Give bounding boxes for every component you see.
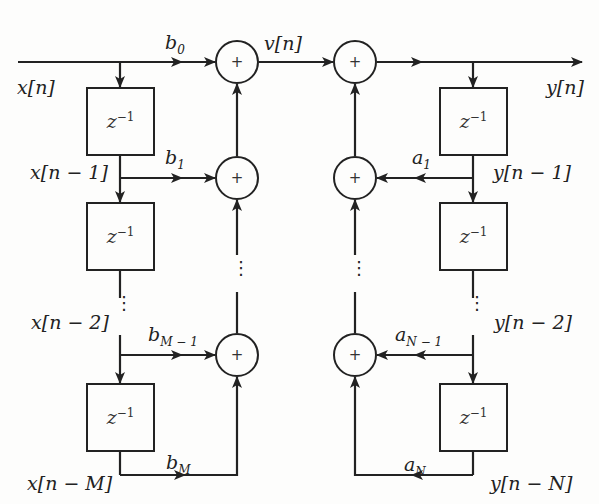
delay-block-x-1: z−1 xyxy=(86,87,155,156)
adder-fb-1: + xyxy=(333,156,377,200)
plus-icon: + xyxy=(349,346,362,364)
adder-ff-0: + xyxy=(215,40,259,84)
plus-icon: + xyxy=(231,346,244,364)
x-delay-ellipsis: ⋮ xyxy=(115,300,125,306)
delay-block-x-2: z−1 xyxy=(86,202,155,271)
coeff-an-1: aN − 1 xyxy=(395,325,442,348)
coeff-an: aN xyxy=(404,455,426,478)
adder-right-ellipsis: ⋮ xyxy=(350,265,360,271)
x-delay-label-m: x[n − M] xyxy=(27,474,112,493)
plus-icon: + xyxy=(349,53,362,71)
y-delay-ellipsis: ⋮ xyxy=(468,300,478,306)
plus-icon: + xyxy=(349,169,362,187)
x-delay-label-2: x[n − 2] xyxy=(31,313,109,332)
delay-block-y-1: z−1 xyxy=(439,87,508,156)
coeff-b0: b0 xyxy=(165,33,185,56)
output-signal-label: y[n] xyxy=(546,78,584,97)
y-delay-label-1: y[n − 1] xyxy=(493,163,571,182)
delay-block-y-2: z−1 xyxy=(439,202,508,271)
adder-fb-0: + xyxy=(333,40,377,84)
plus-icon: + xyxy=(231,169,244,187)
coeff-a1: a1 xyxy=(412,148,431,171)
delay-block-x-m: z−1 xyxy=(86,383,155,452)
adder-fb-n-1: + xyxy=(333,333,377,377)
x-delay-label-1: x[n − 1] xyxy=(30,163,108,182)
y-delay-label-n: y[n − N] xyxy=(490,474,572,493)
adder-left-ellipsis: ⋮ xyxy=(232,265,242,271)
adder-ff-m-1: + xyxy=(215,333,259,377)
delay-block-y-n: z−1 xyxy=(439,383,508,452)
adder-ff-1: + xyxy=(215,156,259,200)
plus-icon: + xyxy=(231,53,244,71)
coeff-bm-1: bM − 1 xyxy=(148,325,198,348)
input-signal-label: x[n] xyxy=(17,78,55,97)
coeff-b1: b1 xyxy=(165,148,185,171)
coeff-bm: bM xyxy=(166,453,190,476)
y-delay-label-2: y[n − 2] xyxy=(494,313,572,332)
intermediate-signal-label: v[n] xyxy=(264,34,302,53)
